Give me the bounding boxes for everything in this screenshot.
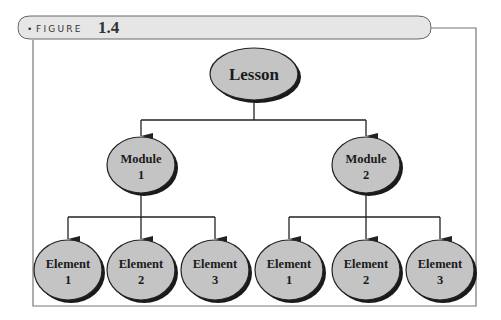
- node-module-1-line2: 1: [138, 168, 144, 182]
- node-m1-element-1: Element 1: [34, 240, 105, 303]
- node-m2-element-2: Element 2: [332, 240, 403, 303]
- node-module-2-line1: Module: [346, 152, 387, 166]
- node-label-line2: 2: [138, 273, 144, 287]
- node-label-line1: Element: [46, 257, 91, 271]
- node-lesson: Lesson: [210, 48, 301, 103]
- node-m1-element-3: Element 3: [181, 240, 252, 303]
- figure-label: FIGURE: [36, 24, 83, 34]
- figure-number: 1.4: [98, 18, 120, 37]
- header-bullet: •: [27, 24, 32, 34]
- node-lesson-label: Lesson: [229, 65, 280, 84]
- node-module-2: Module 2: [332, 137, 403, 196]
- node-label-line2: 3: [212, 273, 218, 287]
- node-label-line1: Element: [344, 257, 389, 271]
- node-label-line2: 3: [437, 273, 443, 287]
- node-label-line1: Element: [193, 257, 238, 271]
- node-module-2-line2: 2: [363, 168, 369, 182]
- node-module-1-line1: Module: [121, 152, 162, 166]
- node-label-line1: Element: [267, 257, 312, 271]
- node-label-line1: Element: [418, 257, 463, 271]
- node-module-1: Module 1: [107, 137, 178, 196]
- node-m2-element-1: Element 1: [255, 240, 326, 303]
- node-m2-element-3: Element 3: [406, 240, 477, 303]
- node-label-line1: Element: [119, 257, 164, 271]
- node-label-line2: 1: [65, 273, 71, 287]
- node-m1-element-2: Element 2: [107, 240, 178, 303]
- node-label-line2: 2: [363, 273, 369, 287]
- node-label-line2: 1: [286, 273, 292, 287]
- figure-header: • FIGURE 1.4: [18, 16, 431, 39]
